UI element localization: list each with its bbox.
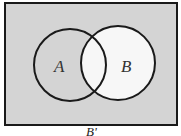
set-b-label: B xyxy=(121,57,132,76)
caption: B' xyxy=(86,124,97,136)
set-a-label: A xyxy=(53,57,65,76)
venn-diagram: A B B' xyxy=(0,0,181,136)
